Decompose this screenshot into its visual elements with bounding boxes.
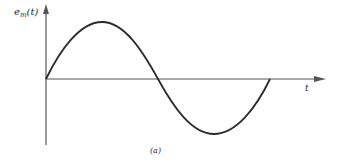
y-axis-arrow-icon	[43, 4, 49, 14]
figure-caption: (a)	[150, 146, 161, 155]
sine-wave-figure: em(t) t (a)	[0, 0, 340, 166]
x-axis-label: t	[305, 83, 309, 93]
y-axis-label: em(t)	[14, 6, 38, 19]
x-axis-arrow-icon	[314, 76, 326, 82]
sine-curve	[46, 22, 270, 134]
